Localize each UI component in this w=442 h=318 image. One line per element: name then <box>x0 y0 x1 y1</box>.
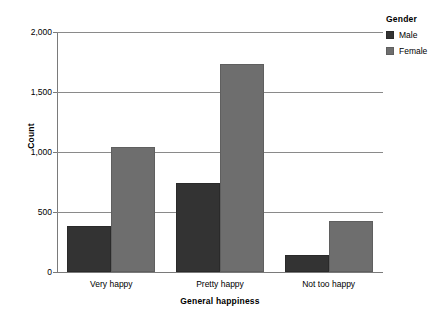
legend: Gender MaleFemale <box>386 14 442 62</box>
y-tick-label-1500: 1,500 <box>8 88 52 97</box>
bar-pretty-happy-male[interactable] <box>176 183 220 272</box>
x-tick-label-very-happy: Very happy <box>61 279 161 289</box>
bar-not-too-happy-male[interactable] <box>285 255 329 272</box>
gridline-2000 <box>57 32 383 33</box>
bar-pretty-happy-female[interactable] <box>220 64 264 272</box>
gridline-0 <box>57 272 383 273</box>
legend-item-female[interactable]: Female <box>386 46 442 56</box>
legend-label-male: Male <box>399 30 417 40</box>
legend-item-male[interactable]: Male <box>386 30 442 40</box>
bar-very-happy-female[interactable] <box>111 147 155 272</box>
legend-items: MaleFemale <box>386 30 442 56</box>
y-axis-title: Count <box>26 106 36 166</box>
y-tick-label-500: 500 <box>8 208 52 217</box>
legend-swatch-male-icon <box>386 31 394 39</box>
bar-not-too-happy-female[interactable] <box>329 221 373 272</box>
legend-label-female: Female <box>399 46 427 56</box>
legend-title: Gender <box>386 14 442 24</box>
x-tick-label-not-too-happy: Not too happy <box>279 279 379 289</box>
x-axis-title: General happiness <box>57 296 383 306</box>
y-tick-label-0: 0 <box>8 268 52 277</box>
y-tick-label-1000: 1,000 <box>8 148 52 157</box>
y-tick-label-2000: 2,000 <box>8 28 52 37</box>
plot-area <box>57 32 383 272</box>
bar-very-happy-male[interactable] <box>67 226 111 272</box>
legend-swatch-female-icon <box>386 47 394 55</box>
x-tick-label-pretty-happy: Pretty happy <box>170 279 270 289</box>
bar-chart-figure: Count 05001,0001,5002,000 Very happyPret… <box>0 0 442 318</box>
